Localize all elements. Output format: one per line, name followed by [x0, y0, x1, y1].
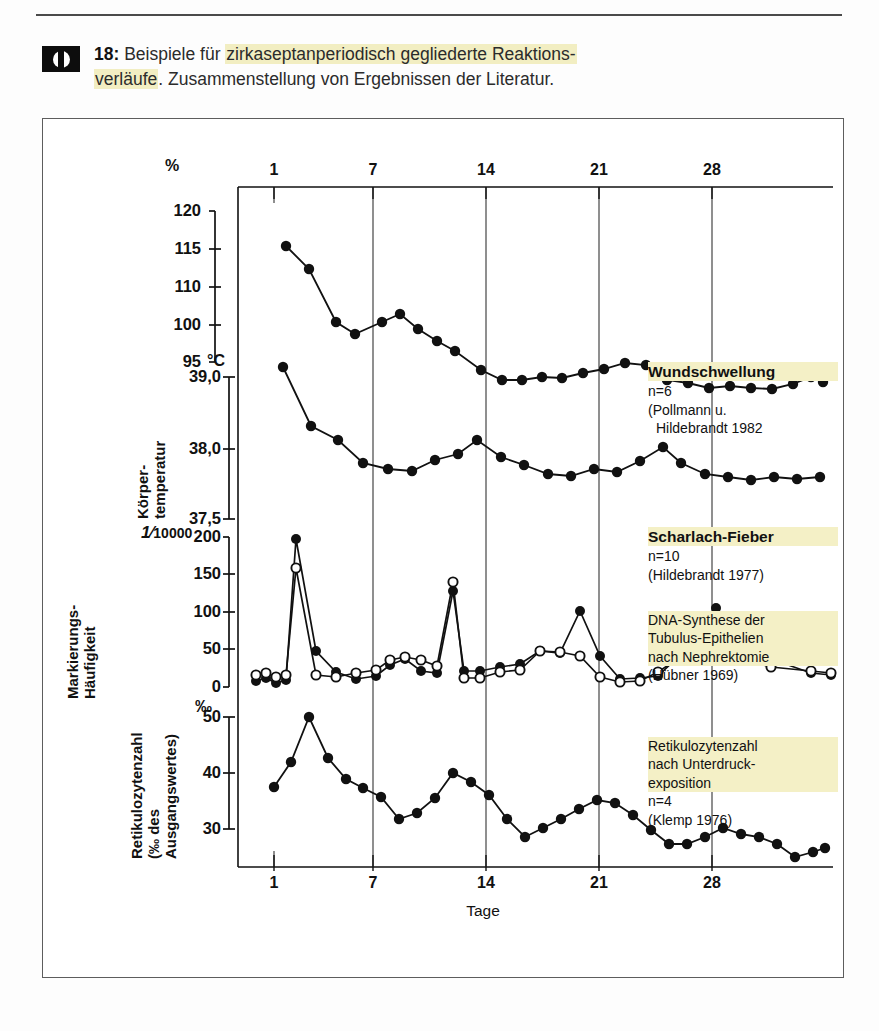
ytick-50: 50: [155, 639, 221, 658]
caption-text-b: zirkaseptanperiodisch gegliederte Reakti…: [225, 44, 576, 64]
legend-title-line3: exposition: [648, 774, 838, 792]
header-rule: [36, 14, 842, 16]
yaxis-panel-dna: [223, 537, 235, 687]
legend-title: Scharlach-Fieber: [648, 527, 838, 546]
xtick-bottom-21: 21: [584, 874, 614, 892]
legend-title: Wundschwellung: [648, 362, 838, 381]
xtick-bottom-7: 7: [358, 874, 388, 892]
caption-line-2: verläufe. Zusammenstellung von Ergebniss…: [94, 67, 602, 92]
ytick-0: 0: [155, 677, 221, 696]
legend-ref-1: (Hildebrandt 1977): [648, 566, 838, 584]
running-header: [140, 0, 760, 8]
xtick-top-1: 1: [259, 161, 289, 179]
legend-title-line3: nach Nephrektomie: [648, 648, 838, 666]
legend-n: n=10: [648, 547, 838, 565]
axis-label-line2: (‰ des: [146, 732, 163, 859]
axis-label-line1: Retikulozytenzahl: [129, 732, 146, 859]
legend-ref-1: (Klemp 1976): [648, 811, 838, 829]
legend-n: n=4: [648, 792, 838, 810]
caption-text-a: Beispiele für: [124, 44, 225, 64]
xtick-top-21: 21: [584, 161, 614, 179]
legend-n: n=6: [648, 382, 838, 400]
top-tick-marks: [274, 187, 712, 199]
ytick-100: 100: [155, 602, 221, 621]
caption-text-c: verläufe: [94, 69, 158, 89]
axis-label-line1: Körper-: [135, 441, 152, 519]
ytick-50-permille: 50: [155, 707, 221, 726]
legend-scharlach-fieber: Scharlach-Fieber n=10 (Hildebrandt 1977): [648, 527, 838, 584]
panel-wundschwellung-unit: %: [165, 157, 179, 175]
legend-title-line1: DNA-Synthese der: [648, 611, 838, 629]
ytick-100: 100: [143, 315, 201, 334]
xtick-top-7: 7: [358, 161, 388, 179]
xtick-top-28: 28: [697, 161, 727, 179]
legend-title-line2: nach Unterdruck-: [648, 755, 838, 773]
eye-icon: [42, 46, 80, 72]
panel-koerpertemperatur-axis-label: Körper- temperatur: [135, 441, 169, 519]
yaxis-panel-koerpertemperatur: [223, 377, 235, 519]
xtick-bottom-1: 1: [259, 874, 289, 892]
legend-ref-1: (Pollmann u.: [648, 401, 838, 419]
xtick-bottom-14: 14: [471, 874, 501, 892]
xtick-top-14: 14: [471, 161, 501, 179]
yaxis-panel-retikulozyten: [223, 717, 235, 829]
figure-caption: 18: Beispiele für zirkaseptanperiodisch …: [42, 42, 602, 92]
figure-page: 18: Beispiele für zirkaseptanperiodisch …: [0, 0, 879, 1031]
legend-title-line2: Tubulus-Epithelien: [648, 629, 838, 647]
ytick-115: 115: [143, 239, 201, 258]
legend-ref-2: Hildebrandt 1982: [648, 419, 838, 437]
axis-label-line2: temperatur: [152, 441, 169, 519]
chart-stage: % 120 115 110 100 95 °C 39,0 38,0 37,5 K…: [43, 119, 843, 977]
ytick-120: 120: [143, 201, 201, 220]
panel-retikulozyten-axis-label: Retikulozytenzahl (‰ des Ausgangswertes): [129, 732, 179, 859]
legend-retikulozyten: Retikulozytenzahl nach Unterdruck- expos…: [648, 737, 838, 829]
yaxis-panel-wundschwellung: [209, 211, 221, 362]
group-label-line2: Häufigkeit: [82, 605, 99, 699]
figure-frame: % 120 115 110 100 95 °C 39,0 38,0 37,5 K…: [42, 118, 844, 978]
legend-dna-synthese: DNA-Synthese der Tubulus-Epithelien nach…: [648, 611, 838, 685]
ytick-39-0: 39,0: [153, 367, 221, 386]
bottom-tick-marks: [274, 855, 712, 871]
legend-wundschwellung: Wundschwellung n=6 (Pollmann u. Hildebra…: [648, 362, 838, 438]
ytick-150: 150: [155, 564, 221, 583]
weekly-gridlines: [274, 187, 712, 867]
ytick-110: 110: [143, 277, 201, 296]
caption-text-d: . Zusammenstellung von Ergebnissen der L…: [158, 69, 554, 89]
caption-line-1: 18: Beispiele für zirkaseptanperiodisch …: [94, 42, 602, 67]
ytick-200: 200: [155, 527, 221, 546]
left-group-label: Markierungs- Häufigkeit: [65, 605, 99, 699]
legend-title-line1: Retikulozytenzahl: [648, 737, 838, 755]
group-label-line1: Markierungs-: [65, 605, 82, 699]
xaxis-title: Tage: [443, 902, 523, 920]
xtick-bottom-28: 28: [697, 874, 727, 892]
axis-label-line3: Ausgangswertes): [163, 732, 180, 859]
legend-ref-1: (Hübner 1969): [648, 666, 838, 684]
figure-number: 18:: [94, 44, 119, 64]
